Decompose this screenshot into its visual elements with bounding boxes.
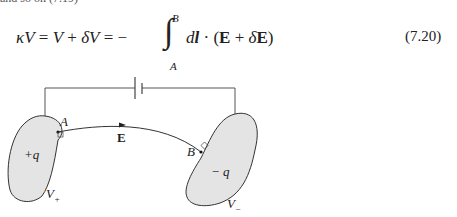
label-potential-plus: V+ [46,186,60,204]
battery-icon [135,77,142,99]
label-point-b: B [187,144,195,160]
negative-conductor [186,113,257,205]
label-charge-plus: +q [24,147,39,163]
minus-subscript: − [235,204,241,214]
v-symbol: V [46,186,54,201]
point-b [199,150,202,153]
label-point-a: A [60,114,68,130]
label-charge-minus: − q [211,164,230,180]
label-potential-minus: V− [227,196,241,214]
v-symbol: V [227,196,235,211]
plus-subscript: + [54,194,60,204]
field-line [58,126,201,152]
circuit-wire [45,88,235,116]
label-field-e: E [117,130,126,146]
capacitor-diagram [0,0,457,217]
